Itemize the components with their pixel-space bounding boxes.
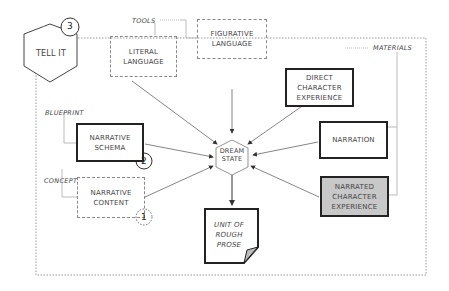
narrative-schema-node: NARRATIVE SCHEMA	[76, 123, 144, 162]
figurative-language-node: FIGURATIVE LANGUAGE	[197, 19, 267, 59]
dream-state-label: DREAM STATE	[216, 147, 248, 163]
narration-node: NARRATION	[319, 121, 388, 159]
direct-character-experience-node: DIRECT CHARACTER EXPERIENCE	[285, 68, 354, 107]
concept-label: CONCEPT	[44, 177, 77, 185]
narrative-content-node: NARRATIVE CONTENT	[77, 177, 145, 218]
blueprint-label: BLUEPRINT	[45, 109, 84, 117]
tell-it-label: TELL IT	[26, 49, 76, 59]
literal-language-node: LITERAL LANGUAGE	[110, 36, 177, 77]
step-3-number: 3	[63, 21, 77, 31]
unit-of-rough-prose-label: UNIT OF ROUGH PROSE	[207, 220, 251, 250]
materials-label: MATERIALS	[373, 44, 412, 52]
narrated-character-experience-node: NARRATED CHARACTER EXPERIENCE	[320, 176, 389, 217]
step-2-number: 2	[137, 156, 151, 166]
step-1-number: 1	[137, 212, 151, 222]
tools-label: TOOLS	[132, 17, 155, 25]
